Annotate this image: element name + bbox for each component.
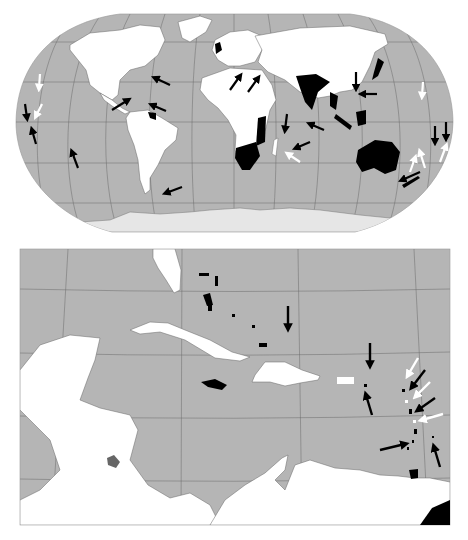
world-map-panel <box>0 0 468 240</box>
caribbean-map <box>0 240 468 540</box>
caribbean-map-panel <box>0 240 468 540</box>
world-map <box>0 0 468 240</box>
puerto-rico <box>337 377 354 384</box>
